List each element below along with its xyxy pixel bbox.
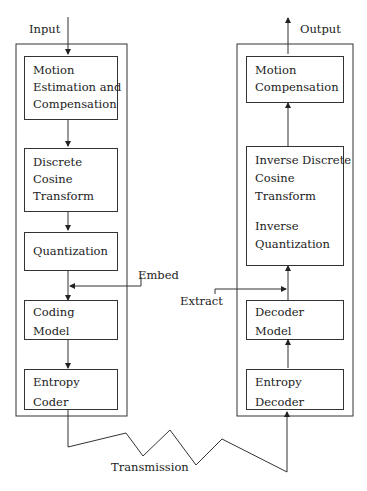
motion-estimation-block: Motion Estimation and Compensation <box>24 56 118 120</box>
decoder-model-block: Decoder Model <box>246 300 344 340</box>
transmission-label: Transmission <box>111 459 189 476</box>
dct-block: Discrete Cosine Transform <box>24 148 118 212</box>
quantization-block: Quantization <box>24 232 118 271</box>
motion-compensation-block: Motion Compensation <box>246 56 344 103</box>
input-label: Input <box>29 21 60 38</box>
extract-label: Extract <box>180 293 223 310</box>
entropy-coder-block: Entropy Coder <box>24 369 118 410</box>
embed-label: Embed <box>138 267 179 284</box>
output-label: Output <box>300 21 341 38</box>
coding-model-block: Coding Model <box>24 300 118 340</box>
entropy-decoder-block: Entropy Decoder <box>246 369 344 410</box>
inverse-dct-quantization-block: Inverse Discrete Cosine Transform Invers… <box>246 146 344 266</box>
